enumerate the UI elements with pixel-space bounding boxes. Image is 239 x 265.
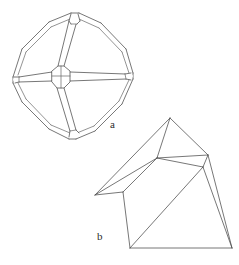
- figure-label-a: a: [110, 118, 115, 130]
- figure-label-b: b: [97, 230, 103, 242]
- shape-a-center-face: [52, 66, 70, 88]
- crystal-figure-canvas: a b: [0, 0, 239, 265]
